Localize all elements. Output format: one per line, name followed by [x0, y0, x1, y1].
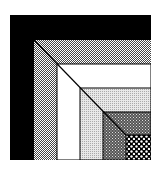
- nested-l-bands-figure: [10, 15, 151, 160]
- band-dots: [126, 135, 151, 160]
- bands-svg: [10, 15, 151, 160]
